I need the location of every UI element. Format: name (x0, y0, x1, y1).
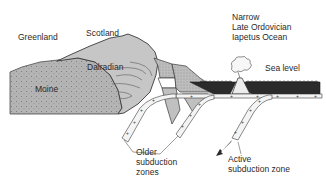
svg-text:+: + (198, 101, 201, 107)
svg-text:+: + (276, 93, 279, 99)
label-greenland: Greenland (18, 32, 58, 42)
label-dalradian: Dalradian (87, 62, 123, 72)
label-scotland: Scotland (86, 28, 119, 38)
label-iapetus-ocean: Narrow Late Ordovician Iapetus Ocean (232, 12, 292, 42)
svg-text:+: + (181, 123, 184, 129)
eruption-cloud (231, 56, 251, 72)
svg-text:+: + (241, 119, 244, 125)
active-zone-leader (238, 142, 241, 154)
svg-text:+: + (230, 93, 233, 99)
svg-text:+: + (126, 130, 129, 136)
fault-slice-grey-wedge (162, 88, 180, 124)
svg-text:+: + (314, 93, 317, 99)
label-active-subduction-zone: Active subduction zone (228, 154, 290, 174)
svg-text:+: + (152, 97, 155, 103)
fault-slice-white (158, 78, 176, 88)
oceanic-plate (176, 94, 322, 98)
svg-text:+: + (258, 98, 261, 104)
cross-section-diagram: +++ ++++ ++++ +++ ++++ Greenland Scotlan… (0, 0, 326, 184)
svg-text:+: + (190, 93, 193, 99)
label-moine: Moine (35, 84, 58, 94)
svg-text:+: + (296, 93, 299, 99)
svg-text:+: + (133, 119, 136, 125)
svg-text:+: + (249, 107, 252, 113)
svg-text:+: + (234, 129, 237, 135)
active-subduction-slab (232, 95, 272, 140)
svg-text:+: + (140, 107, 143, 113)
svg-text:+: + (189, 112, 192, 118)
label-older-subduction-zones: Older subduction zones (136, 147, 177, 177)
label-sea-level: Sea level (265, 63, 300, 73)
volcano-vent (238, 72, 240, 78)
